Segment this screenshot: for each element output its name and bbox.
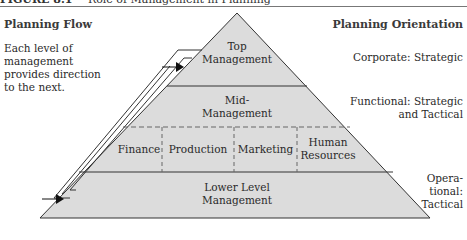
level-top-management: Top Management — [187, 40, 287, 66]
level-label-line: Management — [187, 53, 287, 66]
level-label-line: Management — [187, 107, 287, 120]
level-label-line: Management — [187, 194, 287, 207]
level-label-line: Lower Level — [187, 181, 287, 194]
function-marketing: Marketing — [234, 143, 297, 156]
function-production: Production — [162, 143, 234, 156]
function-human-resources: Human Resources — [300, 136, 356, 162]
level-label-line: Top — [187, 40, 287, 53]
level-mid-management: Mid- Management — [187, 94, 287, 120]
level-label-line: Mid- — [187, 94, 287, 107]
function-finance: Finance — [116, 143, 162, 156]
level-lower-management: Lower Level Management — [187, 181, 287, 207]
